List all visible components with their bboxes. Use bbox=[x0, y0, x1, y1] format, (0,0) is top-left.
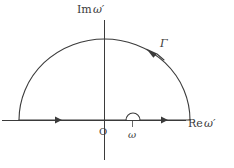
contour-diagram-canvas bbox=[0, 0, 234, 168]
axes-group bbox=[2, 20, 186, 160]
contour-label-gamma: Γ bbox=[160, 38, 168, 49]
real-axis-label: Re ω′ bbox=[188, 118, 215, 129]
arrow-right-segment-icon bbox=[161, 117, 168, 124]
arrow-large-arc-icon bbox=[146, 48, 157, 57]
imaginary-axis-label: Im ω′ bbox=[77, 4, 104, 15]
imaginary-axis-prefix: Im bbox=[77, 3, 92, 16]
pole-label-omega: ω bbox=[128, 130, 136, 140]
real-axis-prefix: Re bbox=[188, 117, 203, 130]
real-axis-variable: ω′ bbox=[204, 117, 215, 130]
contour-small-semicircle bbox=[126, 113, 140, 120]
contour-figure: Im ω′ Re ω′ O ω Γ bbox=[0, 0, 234, 168]
direction-arrows-group bbox=[55, 48, 168, 123]
arrow-left-segment-icon bbox=[55, 117, 62, 124]
imaginary-axis-variable: ω′ bbox=[93, 3, 104, 16]
origin-label: O bbox=[99, 127, 107, 137]
